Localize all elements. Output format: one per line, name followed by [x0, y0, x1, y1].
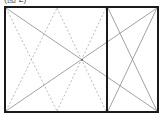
- dashed-lines-left-panel: [6, 8, 106, 111]
- right-panel-lines: [108, 8, 157, 111]
- center-point: [81, 59, 83, 61]
- window-diagram: [0, 0, 162, 118]
